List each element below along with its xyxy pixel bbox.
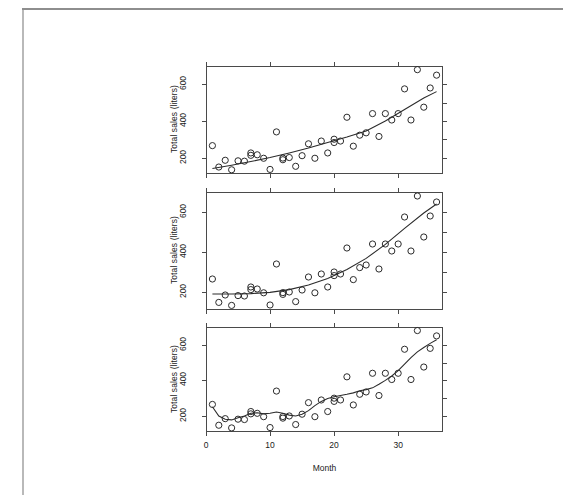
data-point [401,214,407,220]
y-tick-label: 200 [178,142,188,172]
data-point [209,401,215,407]
y-tick-mark-right [443,345,447,346]
data-point [325,408,331,414]
data-point [408,117,414,123]
x-tick-label: 30 [383,440,413,450]
data-point [235,416,241,422]
data-point [318,138,324,144]
data-point [389,376,395,382]
data-point [401,346,407,352]
y-tick-mark-right [443,103,447,104]
plot-data-layer [206,327,443,432]
data-point [427,213,433,219]
fitted-trend-line [212,92,436,169]
data-point [254,286,260,292]
y-tick-mark-right [443,252,447,253]
figure-page: Total sales (liters)200400600Total sales… [0,0,563,495]
y-tick-mark-right [443,232,447,233]
data-point [216,422,222,428]
plot-data-layer [206,66,443,174]
data-point [433,72,439,78]
scatter-panel-2: Total sales (liters)200400600 [206,192,443,310]
data-point [229,302,235,308]
y-tick-mark-right [443,292,447,293]
data-point [312,414,318,420]
data-point [318,271,324,277]
data-point [273,129,279,135]
data-point [267,302,273,308]
scatter-panel-3: Total sales (liters)2004006000102030Mont… [206,327,443,432]
x-axis-title: Month [275,463,375,473]
x-tick-mark [334,174,335,178]
y-tick-mark-right [443,84,447,85]
data-point [350,402,356,408]
data-point [229,167,235,173]
data-point [369,241,375,247]
data-point [299,153,305,159]
data-point [293,163,299,169]
plot-data-layer [206,192,443,310]
y-tick-label: 600 [178,68,188,98]
data-point [241,416,247,422]
data-point [305,141,311,147]
x-tick-mark [398,174,399,178]
data-point [337,397,343,403]
data-point [286,154,292,160]
y-tick-label: 200 [178,276,188,306]
x-tick-mark [398,310,399,314]
data-point [344,245,350,251]
y-tick-mark-right [443,380,447,381]
x-tick-label: 0 [191,440,221,450]
data-point [376,392,382,398]
data-point [421,104,427,110]
x-tick-mark [398,432,399,436]
y-tick-mark-right [443,363,447,364]
data-point [421,364,427,370]
data-point [389,117,395,123]
y-tick-mark-right [443,121,447,122]
data-point [414,327,420,333]
data-point [312,290,318,296]
data-point [222,157,228,163]
fitted-trend-line [212,204,436,294]
data-point [325,150,331,156]
data-point [293,421,299,427]
y-tick-label: 400 [178,105,188,135]
y-tick-label: 600 [178,329,188,359]
x-tick-mark [206,432,207,436]
scatter-panel-1: Total sales (liters)200400600 [206,66,443,174]
x-tick-label: 10 [255,440,285,450]
data-point [357,265,363,271]
data-point [369,110,375,116]
data-point [414,193,420,199]
data-point [273,388,279,394]
data-point [273,261,279,267]
y-tick-label: 200 [178,400,188,430]
data-point [229,425,235,431]
x-tick-mark [270,310,271,314]
x-tick-label: 20 [319,440,349,450]
x-tick-mark [206,310,207,314]
data-point [369,370,375,376]
y-tick-mark-right [443,139,447,140]
data-point [325,284,331,290]
data-point [414,67,420,73]
data-point [408,248,414,254]
y-tick-label: 400 [178,236,188,266]
data-point [305,274,311,280]
x-tick-mark [270,432,271,436]
data-point [382,370,388,376]
y-tick-mark-right [443,398,447,399]
y-tick-label: 400 [178,364,188,394]
data-point [421,234,427,240]
data-point [401,86,407,92]
data-point [350,277,356,283]
data-point [216,299,222,305]
y-tick-mark-right [443,416,447,417]
data-point [305,400,311,406]
data-point [293,299,299,305]
data-point [433,333,439,339]
data-point [395,241,401,247]
x-tick-mark [334,310,335,314]
x-tick-mark [270,174,271,178]
